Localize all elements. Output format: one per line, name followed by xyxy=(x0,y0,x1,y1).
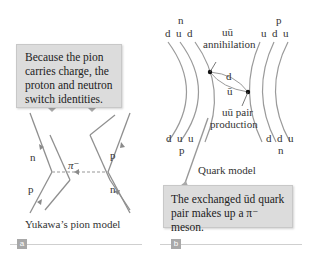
callout-line: proton and neutron xyxy=(25,78,121,92)
callout-line: The exchanged ūd quark xyxy=(171,192,292,206)
panel-b-badge: b xyxy=(171,239,181,249)
callout-line: Because the pion xyxy=(25,50,121,64)
label-pair-production-1: uū pair xyxy=(222,107,253,118)
yukawa-diagram-lines xyxy=(35,115,130,210)
label-proton-top-right: p xyxy=(110,150,116,161)
label-neutron-top-left: n xyxy=(30,152,36,163)
exchanged-quark-callout: The exchanged ūd quark pair makes up a π… xyxy=(163,185,293,228)
label-exchange-d: d xyxy=(226,71,232,82)
label-quarks-bottom-left: d u u xyxy=(166,133,194,144)
panel-a-rule xyxy=(10,244,142,245)
label-annihilation: annihilation xyxy=(203,39,256,50)
label-pion: π⁻ xyxy=(68,160,79,171)
caption-quark-model: Quark model xyxy=(198,164,256,176)
label-proton-bottom-left: p xyxy=(28,184,34,195)
label-pair-production-2: production xyxy=(210,119,258,130)
caption-yukawa: Yukawa’s pion model xyxy=(25,218,120,230)
callout-line: pair makes up a π⁻ meson. xyxy=(171,206,292,234)
label-proton-top: p xyxy=(276,15,282,26)
panel-b-rule xyxy=(160,244,302,245)
label-exchange-ubar: ū xyxy=(227,86,233,97)
label-quarks-top-left: d u d xyxy=(165,28,193,39)
label-neutron-bottom: n xyxy=(278,145,284,156)
panel-a-badge: a xyxy=(17,239,27,249)
label-neutron-top: n xyxy=(178,15,184,26)
label-neutron-bottom-right: n xyxy=(110,184,116,195)
callout-line: carries charge, the xyxy=(25,64,121,78)
label-quarks-top-right: u d u xyxy=(261,28,289,39)
callout-line: switch identities. xyxy=(25,92,121,106)
label-quarks-bottom-right: d d u xyxy=(266,133,294,144)
pion-charge-callout: Because the pion carries charge, the pro… xyxy=(16,44,122,108)
label-proton-bottom: p xyxy=(179,145,185,156)
label-uubar-annihilation: uū xyxy=(222,27,233,38)
